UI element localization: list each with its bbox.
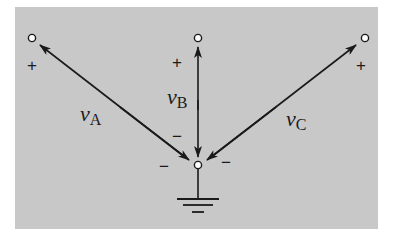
minus-a: −	[159, 157, 169, 176]
minus-c: −	[221, 153, 231, 172]
plus-b: +	[172, 53, 182, 72]
node-a	[28, 34, 35, 41]
three-phase-voltage-diagram: + + + − − − vA vB vC	[0, 0, 394, 241]
node-c	[361, 34, 368, 41]
plus-c: +	[356, 56, 366, 75]
plus-a: +	[27, 56, 37, 75]
node-b	[194, 34, 201, 41]
node-ref	[194, 161, 201, 168]
minus-b: −	[172, 127, 182, 146]
